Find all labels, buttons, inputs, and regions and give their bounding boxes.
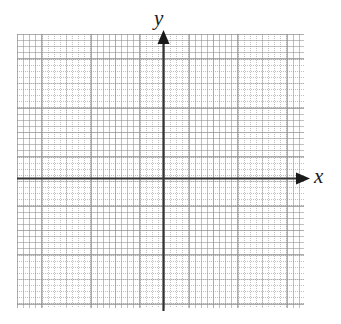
coordinate-plane: y x [0,0,341,324]
minor-gridlines [17,34,304,308]
y-axis-label: y [154,8,163,29]
x-axis-label: x [314,166,323,187]
grid-area [17,34,304,308]
